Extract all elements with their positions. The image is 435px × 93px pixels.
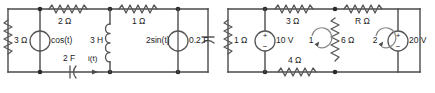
node-right-top-b xyxy=(333,7,338,12)
label-c02f: 0.2 F xyxy=(189,35,208,45)
label-v10: 10 V xyxy=(276,35,294,45)
label-v20: 20 V xyxy=(409,35,427,45)
v20-minus-sign: − xyxy=(396,42,401,51)
label-r3: 3 Ω xyxy=(14,35,27,45)
circuit-canvas: 3 Ω cos(t) 2 Ω 3 H xyxy=(0,0,435,93)
label-l3h: 3 H xyxy=(90,35,103,45)
v10-plus-sign: + xyxy=(263,31,268,40)
label-src-2sin: 2sin(t) xyxy=(146,35,170,45)
label-c2f: 2 F xyxy=(63,53,75,63)
label-r1: 1 Ω xyxy=(132,16,145,26)
label-src-cos: cos(t) xyxy=(51,35,72,45)
left-circuit-group: 3 Ω cos(t) 2 Ω 3 H xyxy=(4,5,214,78)
inductor-3h xyxy=(106,24,111,62)
node-left-bot-a xyxy=(38,70,43,75)
voltage-source-20v: + − xyxy=(388,31,408,51)
label-rr: R Ω xyxy=(355,16,370,26)
source-cos-t xyxy=(30,31,50,51)
label-r6: 6 Ω xyxy=(341,35,354,45)
source-2sin-t xyxy=(168,31,188,51)
label-r2: 2 Ω xyxy=(58,16,71,26)
label-mesh-2: 2 xyxy=(373,35,378,45)
label-mesh-1: 1 xyxy=(309,35,314,45)
resistor-3ohm-left xyxy=(4,20,12,54)
node-right-bot-b xyxy=(333,70,338,75)
mesh-loop-1 xyxy=(312,28,332,48)
label-it: i(t) xyxy=(88,54,98,63)
label-r3r: 3 Ω xyxy=(286,16,299,26)
label-r4: 4 Ω xyxy=(288,55,301,65)
label-r1r: 1 Ω xyxy=(234,35,247,45)
current-arrow-it xyxy=(92,69,98,74)
resistor-1ohm-right xyxy=(224,20,232,54)
right-circuit-group: 1 Ω + − 10 V 3 Ω 6 Ω xyxy=(224,5,427,76)
v10-minus-sign: − xyxy=(263,42,268,51)
circuit-figure-pair: 3 Ω cos(t) 2 Ω 3 H xyxy=(0,0,435,93)
voltage-source-10v: + − xyxy=(255,31,275,51)
node-left-top-a xyxy=(38,7,43,12)
